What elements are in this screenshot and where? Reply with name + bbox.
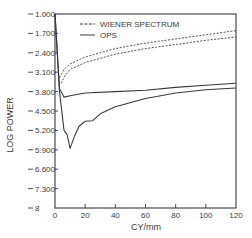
x-tick-label: 80 xyxy=(171,211,180,220)
y-tick-label: 4.500 xyxy=(35,107,56,116)
y-tick-label: 7.300 xyxy=(35,185,56,194)
y-tick-label: 3.800 xyxy=(35,88,56,97)
legend: WIENER SPECTRUMOPS xyxy=(80,20,179,40)
wiener-spectrum-line xyxy=(61,37,236,83)
plot-series xyxy=(55,14,236,148)
x-tick-label: 120 xyxy=(229,211,243,220)
y-tick-label: 5.900 xyxy=(35,146,56,155)
y-tick-label: 1.000 xyxy=(35,10,56,19)
legend-label: OPS xyxy=(100,31,117,40)
y-tick-label: 6.600 xyxy=(35,165,56,174)
y-axis-label: LOG POWER xyxy=(5,97,15,153)
x-tick-label: 100 xyxy=(199,211,213,220)
ops-line xyxy=(55,14,236,148)
log-power-chart: 1.0001.7002.4003.1003.8004.5005.2005.900… xyxy=(0,0,252,238)
wiener-spectrum-line xyxy=(60,31,237,78)
y-tick-label: 1.700 xyxy=(35,29,56,38)
y-tick-label: 5.200 xyxy=(35,126,56,135)
x-axis-label: CY/mm xyxy=(131,222,161,232)
x-tick-label: 40 xyxy=(111,211,120,220)
y-tick-label: 3.100 xyxy=(35,68,56,77)
x-axis-ticks: 020406080100120 xyxy=(53,204,243,220)
legend-label: WIENER SPECTRUM xyxy=(100,20,179,29)
y-axis-ticks: 1.0001.7002.4003.1003.8004.5005.2005.900… xyxy=(28,10,58,213)
y-tick-label: 2.400 xyxy=(35,49,56,58)
x-tick-label: 0 xyxy=(53,211,58,220)
x-tick-label: 20 xyxy=(81,211,90,220)
y-tick-label: 8 xyxy=(35,204,40,213)
x-tick-label: 60 xyxy=(141,211,150,220)
